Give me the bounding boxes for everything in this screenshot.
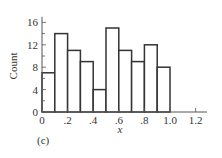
y-tick-label: 4 — [33, 84, 39, 96]
x-tick-label: 0 — [39, 114, 45, 126]
y-axis-label: Count — [7, 53, 19, 80]
histogram-bar — [106, 28, 119, 112]
histogram-bar — [68, 50, 81, 112]
histogram-chart: 0481216 0.2.4.6.81.01.2 Count x — [0, 0, 222, 158]
x-tick-label: .4 — [89, 114, 98, 126]
x-axis-label: x — [117, 123, 123, 135]
x-tick-label: .8 — [140, 114, 149, 126]
x-tick-label: .2 — [63, 114, 71, 126]
histogram-bar — [119, 50, 132, 112]
y-tick-label: 12 — [27, 39, 38, 51]
histogram-bar — [144, 45, 157, 112]
histogram-bar — [55, 34, 68, 112]
panel-label: (c) — [37, 134, 49, 146]
histogram-bars — [42, 28, 170, 112]
y-tick-label: 16 — [27, 16, 39, 28]
histogram-bar — [93, 90, 106, 112]
x-tick-label: 1.0 — [163, 114, 177, 126]
y-tick-label: 8 — [33, 61, 39, 73]
histogram-bar — [157, 67, 170, 112]
histogram-bar — [132, 62, 145, 112]
y-tick-label: 0 — [33, 106, 39, 118]
x-tick-label: 1.2 — [189, 114, 203, 126]
histogram-bar — [80, 62, 93, 112]
